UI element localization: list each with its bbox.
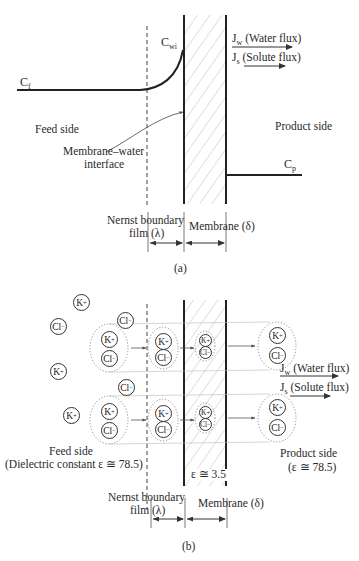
ion-symbol: K xyxy=(104,335,111,345)
label-nernst-a-line2: film (λ) xyxy=(129,228,164,240)
ion-charge: − xyxy=(61,323,65,330)
ion-charge: + xyxy=(165,338,169,345)
ion-symbol: Cl xyxy=(200,420,207,429)
ion-charge: + xyxy=(279,404,283,411)
ion-charge: − xyxy=(112,427,116,434)
ion-symbol: Cl xyxy=(200,348,207,357)
cf-subscript: f xyxy=(28,82,31,91)
ion-cl-free-1: Cl− xyxy=(117,312,134,329)
ion-charge: + xyxy=(111,336,115,343)
jw-text: (Water flux) xyxy=(290,362,349,374)
ion-symbol: Cl xyxy=(103,426,112,436)
ion-k-free-1: K+ xyxy=(73,294,90,311)
label-product-side-a: Product side xyxy=(275,121,332,133)
js-text: (Solute flux) xyxy=(240,51,301,63)
ion-charge: − xyxy=(129,384,133,391)
label-nernst-b-line1: Nernst boundary xyxy=(108,492,185,504)
cp-subscript: p xyxy=(292,164,296,173)
label-feed-side-a: Feed side xyxy=(35,124,79,136)
ion-charge: − xyxy=(280,424,284,431)
ion-symbol: K xyxy=(272,403,279,413)
ion-symbol: Cl xyxy=(157,425,166,435)
ion-symbol: K xyxy=(272,331,279,341)
ion-symbol: K xyxy=(158,409,165,419)
ion-cl-pair2-feed: Cl− xyxy=(101,422,118,439)
label-nernst-a-line1: Nernst boundary xyxy=(107,215,184,227)
ion-symbol: Cl xyxy=(119,316,128,326)
ion-charge: + xyxy=(165,410,169,417)
ion-charge: + xyxy=(206,337,210,344)
ion-cl-pair2-film: Cl− xyxy=(155,421,172,438)
ion-k-pair1-product: K+ xyxy=(269,327,286,344)
ion-k-pair2-feed: K+ xyxy=(101,403,118,420)
label-interface-line2: interface xyxy=(84,159,124,171)
ion-charge: − xyxy=(207,421,211,428)
ion-k-pair1-feed: K+ xyxy=(101,331,118,348)
label-feed-dielectric: (Dielectric constant ε ≅ 78.5) xyxy=(5,459,143,471)
jw-text: (Water flux) xyxy=(242,32,301,44)
ion-cl-pair1-film: Cl− xyxy=(155,349,172,366)
label-feed-side-b: Feed side xyxy=(49,446,93,458)
ion-symbol: Cl xyxy=(120,383,129,393)
js-text: (Solute flux) xyxy=(288,381,349,393)
ion-charge: − xyxy=(166,426,170,433)
label-cwi: Cwi xyxy=(161,36,177,51)
ion-symbol: Cl xyxy=(52,322,61,332)
ion-charge: + xyxy=(279,332,283,339)
label-membrane-b: Membrane (δ) xyxy=(198,498,264,510)
caption-a: (a) xyxy=(174,263,187,275)
ion-charge: + xyxy=(111,408,115,415)
ion-symbol: K xyxy=(104,407,111,417)
ion-cl-free-2: Cl− xyxy=(50,318,67,335)
ion-cl-pair1-feed: Cl− xyxy=(101,350,118,367)
ion-symbol: Cl xyxy=(103,354,112,364)
ion-charge: + xyxy=(73,412,77,419)
label-cp: Cp xyxy=(284,158,296,173)
label-water-flux-a: Jw (Water flux) xyxy=(232,33,301,47)
ion-k-pair2-product: K+ xyxy=(269,399,286,416)
ion-symbol: K xyxy=(66,411,73,421)
ion-symbol: K xyxy=(53,367,60,377)
membrane-b xyxy=(184,300,226,486)
ion-cl-pair2-membrane: Cl− xyxy=(199,418,212,431)
ion-charge: − xyxy=(280,352,284,359)
ion-symbol: K xyxy=(76,298,83,308)
ion-k-pair1-film: K+ xyxy=(155,333,172,350)
cf-symbol: C xyxy=(20,75,28,89)
feed-concentration-curve xyxy=(17,50,183,90)
label-membrane-a: Membrane (δ) xyxy=(189,221,255,233)
ion-charge: + xyxy=(83,299,87,306)
label-solute-flux-b: Js (Solute flux) xyxy=(280,382,349,396)
ion-cl-free-3: Cl− xyxy=(118,379,135,396)
membrane-a xyxy=(184,15,226,204)
ion-charge: − xyxy=(166,354,170,361)
ion-k-free-3: K+ xyxy=(63,407,80,424)
cwi-symbol: C xyxy=(161,35,169,49)
ion-charge: + xyxy=(60,368,64,375)
caption-b: (b) xyxy=(182,541,195,553)
ion-cl-pair2-product: Cl− xyxy=(269,419,286,436)
label-product-dielectric: (ε ≅ 78.5) xyxy=(288,462,336,474)
ion-symbol: Cl xyxy=(157,353,166,363)
ion-k-pair2-film: K+ xyxy=(155,405,172,422)
label-product-side-b: Product side xyxy=(280,448,337,460)
ion-charge: − xyxy=(128,317,132,324)
ion-charge: + xyxy=(206,409,210,416)
ion-symbol: Cl xyxy=(271,423,280,433)
label-membrane-dielectric: ε ≅ 3.5 xyxy=(190,469,227,481)
label-solute-flux-a: Js (Solute flux) xyxy=(232,52,301,66)
label-water-flux-b: Jw (Water flux) xyxy=(280,363,349,377)
ion-symbol: Cl xyxy=(271,351,280,361)
label-interface-line1: Membrane–water xyxy=(63,146,144,158)
cwi-subscript: wi xyxy=(169,42,177,51)
ion-charge: − xyxy=(112,355,116,362)
ion-k-free-2: K+ xyxy=(50,363,67,380)
label-cf: Cf xyxy=(20,76,31,91)
ion-charge: − xyxy=(207,349,211,356)
diagram-canvas xyxy=(0,0,359,561)
ion-cl-pair1-membrane: Cl− xyxy=(199,346,212,359)
ion-symbol: K xyxy=(158,337,165,347)
label-nernst-b-line2: film (λ) xyxy=(130,505,165,517)
cp-symbol: C xyxy=(284,157,292,171)
